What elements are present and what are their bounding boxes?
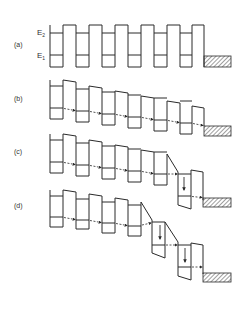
panel-a: (a) E2 E1 xyxy=(14,25,231,67)
contact-c xyxy=(203,198,231,207)
panel-label-c: (c) xyxy=(14,148,22,156)
band-profile-b xyxy=(50,80,204,134)
contact-b xyxy=(204,126,231,136)
tunneling-arrows-c xyxy=(64,163,202,198)
e1-label: E1 xyxy=(37,51,45,61)
contact-d xyxy=(203,273,231,282)
panel-label-d: (d) xyxy=(14,202,23,210)
band-profile-a xyxy=(50,25,204,67)
panel-label-a: (a) xyxy=(14,41,23,49)
panel-c: (c) xyxy=(14,134,231,209)
contact-a xyxy=(204,56,231,67)
e2-label: E2 xyxy=(37,28,45,38)
panel-label-b: (b) xyxy=(14,95,23,103)
levels-c xyxy=(50,140,191,196)
levels-d xyxy=(50,196,191,267)
band-profile-c xyxy=(50,134,203,209)
tunneling-arrows-d xyxy=(64,218,202,268)
panel-d: (d) xyxy=(14,190,231,282)
levels-a xyxy=(50,33,192,55)
panel-b: (b) xyxy=(14,80,231,136)
band-diagram: (a) E2 E1 (b) xyxy=(0,0,247,311)
